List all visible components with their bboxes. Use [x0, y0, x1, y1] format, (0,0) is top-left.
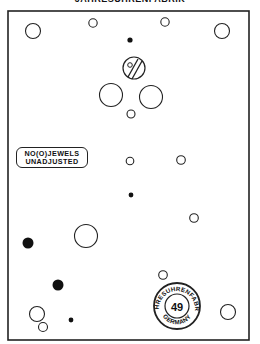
hole-bottom-left-large: [30, 307, 45, 322]
pivot-dot-top: [127, 37, 132, 42]
hole-top-left-large: [26, 24, 41, 39]
hole-top-small-right: [161, 18, 169, 26]
hole-bottom-left-small: [39, 323, 48, 332]
hole-right-lower-small: [190, 214, 199, 223]
hole-bottom-right: [221, 305, 236, 320]
hole-middle-right-small: [177, 156, 186, 165]
filled-pivot-left: [23, 238, 34, 249]
jewels-label: NO(O)JEWELS UNADJUSTED: [16, 147, 88, 168]
hole-left-arbor: [100, 84, 123, 107]
clock-back-plate: JAHRESUHRENFABRIK GERMANY 49: [0, 0, 260, 344]
filled-pivot-lower: [53, 280, 64, 291]
hole-top-right-large: [215, 24, 230, 39]
jewels-label-line2: UNADJUSTED: [25, 158, 78, 166]
plate-outline: [8, 11, 249, 340]
hole-middle-left-small: [126, 157, 134, 165]
hole-above-stamp: [159, 271, 168, 280]
hole-top-small-left: [89, 19, 97, 27]
hole-center-small: [127, 110, 135, 118]
hole-lower-large: [75, 225, 98, 248]
pivot-dot-middle: [129, 193, 134, 198]
pivot-dot-bottom: [69, 318, 74, 323]
slotted-screw-icon: [123, 57, 145, 79]
hole-right-arbor: [140, 86, 163, 109]
stamp-number: 49: [171, 301, 183, 313]
